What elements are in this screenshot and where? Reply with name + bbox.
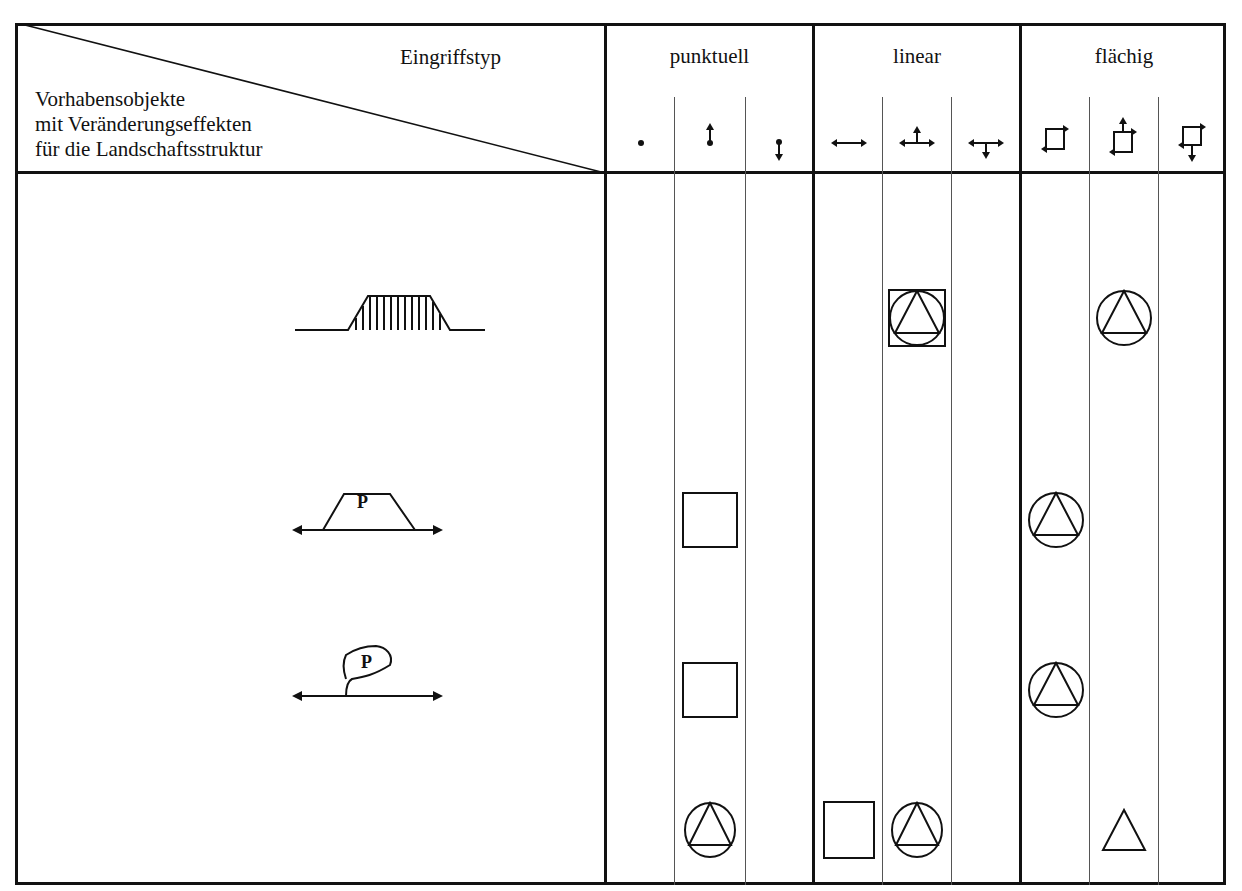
cell-r3-flaechig-1 [1022, 660, 1089, 720]
row-axis-label-line-2: mit Veränderungseffekten [35, 113, 252, 135]
subcolumn-divider [1089, 97, 1090, 885]
double-arrow-with-down-arrow-icon [966, 118, 1006, 162]
subcolumn-header-flaechig-3 [1159, 110, 1226, 170]
circle-triangle-icon [1028, 662, 1084, 718]
cell-r4-linear-2 [883, 800, 951, 860]
subcolumn-header-linear-1 [815, 110, 882, 170]
dot-arrow-up-icon [700, 118, 720, 162]
subcolumn-header-flaechig-2 [1090, 110, 1158, 170]
circle-triangle-icon [1096, 290, 1152, 346]
subcolumn-divider [1158, 97, 1159, 885]
square-icon [682, 492, 738, 548]
circle-triangle-icon [1028, 492, 1084, 548]
double-arrow-with-up-arrow-icon [897, 118, 937, 162]
subcolumn-header-punktuell-2 [675, 110, 745, 170]
square-corner-arrows-icon [1038, 115, 1074, 165]
subcolumn-divider [882, 97, 883, 885]
subcolumn-divider [951, 97, 952, 885]
cell-r1-linear-2 [883, 285, 951, 351]
row-axis-label-line-3: für die Landschaftsstruktur [35, 138, 262, 160]
square-icon [823, 801, 875, 859]
subcolumn-header-punktuell-3 [746, 110, 812, 170]
parking-trapezoid-icon: P [290, 488, 445, 538]
circle-triangle-icon [684, 802, 736, 858]
column-axis-label: Eingriffstyp [400, 46, 501, 68]
row-axis-label-line-1: Vorhabensobjekte [35, 88, 185, 110]
group-label-punktuell: punktuell [607, 44, 812, 69]
cell-r4-punktuell-2 [675, 800, 745, 860]
subcolumn-header-punktuell-1 [607, 110, 674, 170]
subcolumn-header-linear-2 [883, 110, 951, 170]
cell-r4-linear-1 [815, 800, 882, 860]
square-corner-arrows-up-icon [1106, 115, 1142, 165]
cell-r3-punktuell-2 [675, 660, 745, 720]
parking-loop-icon: P [290, 643, 445, 703]
circle-triangle-icon [891, 802, 943, 858]
cell-r2-flaechig-1 [1022, 490, 1089, 550]
cell-r2-punktuell-2 [675, 490, 745, 550]
cell-r4-flaechig-2 [1090, 800, 1158, 860]
subcolumn-divider [745, 97, 746, 885]
square-corner-arrows-down-icon [1175, 115, 1211, 165]
double-arrow-horizontal-icon [829, 118, 869, 162]
parking-label: P [361, 652, 372, 673]
subcolumn-header-linear-3 [952, 110, 1019, 170]
parking-label: P [357, 492, 368, 513]
triangle-icon [1101, 808, 1147, 852]
group-label-flaechig: flächig [1022, 44, 1226, 69]
dot-icon [631, 118, 651, 162]
circle-triangle-in-square-icon [888, 289, 946, 347]
embankment-hatched-icon [290, 290, 490, 335]
dot-arrow-down-icon [769, 118, 789, 162]
cell-r1-flaechig-2 [1090, 288, 1158, 348]
subcolumn-header-flaechig-1 [1022, 110, 1089, 170]
square-icon [682, 662, 738, 718]
group-label-linear: linear [815, 44, 1019, 69]
